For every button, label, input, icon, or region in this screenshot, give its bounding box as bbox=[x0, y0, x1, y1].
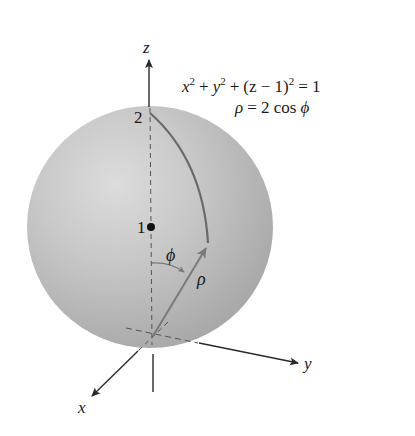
tick-label-1: 1 bbox=[137, 218, 146, 237]
center-point bbox=[147, 223, 155, 231]
rho-label: ρ bbox=[196, 269, 206, 289]
sphere-diagram: z y x 2 1 ϕ ρ x2+y2+(z − 1)2= 1 ρ= 2 cos… bbox=[0, 0, 415, 436]
equation-cartesian: x2+y2+(z − 1)2= 1 bbox=[181, 75, 321, 96]
tick-label-2: 2 bbox=[134, 108, 143, 127]
x-axis bbox=[92, 351, 138, 396]
phi-label: ϕ bbox=[166, 245, 175, 265]
y-axis-label: y bbox=[302, 354, 312, 373]
x-axis-label: x bbox=[77, 398, 86, 417]
y-axis bbox=[199, 343, 298, 363]
z-axis-label: z bbox=[142, 38, 150, 57]
equation-spherical: ρ= 2 cosϕ bbox=[234, 98, 309, 117]
